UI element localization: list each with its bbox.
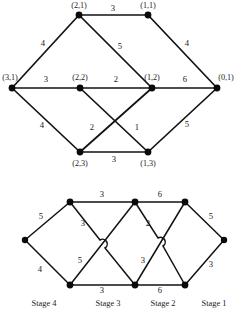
node-label: (1,2) [144, 73, 160, 82]
graph-node[interactable] [182, 199, 189, 206]
edge-weight: 2 [114, 74, 118, 84]
edge-weight: 4 [41, 38, 46, 48]
edge-weight: 3 [111, 3, 115, 13]
edge-weight: 2 [90, 122, 94, 132]
graph-node[interactable] [76, 12, 83, 19]
graph-node[interactable] [132, 282, 139, 289]
graph-node[interactable] [132, 199, 139, 206]
edge-weight: 6 [158, 285, 163, 295]
graph-node[interactable] [77, 85, 84, 92]
stage-labels: Stage 4 Stage 3 Stage 2 Stage 1 [32, 299, 227, 308]
node-label: (1,3) [140, 159, 156, 168]
top-graph: 3 4 5 4 3 2 6 4 2 1 5 3 (2,1) (1,1 [2, 1, 234, 168]
graph-node[interactable] [214, 85, 221, 92]
edge-weight: 5 [209, 211, 213, 221]
edge-weight: 3 [44, 74, 48, 84]
node-label: (1,1) [140, 1, 156, 10]
top-graph-node-labels: (2,1) (1,1) (3,1) (2,2) (1,2) (0,1) (2,3… [2, 1, 234, 168]
node-label: (0,1) [218, 73, 234, 82]
graph-node[interactable] [145, 12, 152, 19]
edge-13-01 [148, 88, 217, 152]
edge-31-23 [12, 88, 80, 152]
node-label: (2,2) [72, 73, 88, 82]
edge-weight: 6 [158, 189, 163, 199]
graph-figure: 3 4 5 4 3 2 6 4 2 1 5 3 (2,1) (1,1 [0, 0, 243, 312]
edge-weight: 3 [141, 255, 145, 265]
edge-weight: 4 [185, 38, 190, 48]
edge-weight: 6 [183, 74, 188, 84]
graph-node[interactable] [145, 149, 152, 156]
edge-weight: 5 [185, 119, 189, 129]
stage-label: Stage 1 [202, 299, 227, 308]
graph-node[interactable] [221, 237, 227, 243]
stage-label: Stage 4 [32, 299, 58, 308]
edge-weight: 5 [39, 211, 43, 221]
edge-weight: 1 [135, 122, 139, 132]
graph-node[interactable] [149, 85, 156, 92]
graph-node[interactable] [9, 85, 16, 92]
graph-node[interactable] [67, 282, 74, 289]
edge-src-bot4 [25, 240, 70, 285]
edge-weight: 4 [38, 264, 43, 274]
edge-weight: 3 [112, 154, 116, 164]
edge-weight: 3 [100, 189, 104, 199]
edge-weight: 5 [118, 41, 122, 51]
edge-weight: 4 [40, 120, 45, 130]
graph-node[interactable] [67, 199, 74, 206]
edge-bot2-sink [185, 240, 224, 285]
graph-node[interactable] [22, 237, 28, 243]
stage-label: Stage 3 [96, 299, 121, 308]
edge-weight: 2 [146, 218, 150, 228]
stage-label: Stage 2 [151, 299, 176, 308]
bottom-graph-edges [25, 202, 224, 285]
node-label: (2,3) [72, 159, 88, 168]
edge-weight: 5 [78, 255, 82, 265]
edge-src-top4 [25, 202, 70, 240]
graph-node[interactable] [182, 282, 189, 289]
bottom-graph: 5 4 3 3 5 3 6 2 3 6 5 3 Stage 4 Stage 3 [22, 189, 227, 308]
graph-node[interactable] [77, 149, 84, 156]
node-label: (3,1) [2, 73, 18, 82]
top-graph-edge-weights: 3 4 5 4 3 2 6 4 2 1 5 3 [40, 3, 190, 164]
edge-weight: 3 [209, 259, 213, 269]
edge-weight: 3 [81, 218, 85, 228]
node-label: (2,1) [71, 1, 87, 10]
edge-top2-sink [185, 202, 224, 240]
edge-weight: 3 [100, 285, 104, 295]
